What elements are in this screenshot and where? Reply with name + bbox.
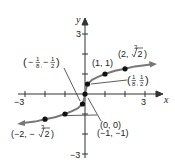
svg-text:(−2, −: (−2, − (11, 129, 35, 139)
point-1 (102, 71, 107, 76)
svg-text:,: , (137, 80, 139, 86)
svg-text:): ) (145, 74, 149, 86)
right-arrow-icon (149, 61, 157, 68)
svg-text:1: 1 (36, 56, 40, 62)
y-min-label: −3 (70, 150, 80, 160)
x-axis-label: x (163, 94, 169, 105)
label-point-neg1: (−1, −1) (97, 128, 129, 138)
svg-text:1: 1 (132, 74, 136, 80)
svg-text:(: ( (23, 56, 27, 68)
x-max-label: 3 (141, 97, 146, 107)
svg-text:−: − (28, 57, 33, 67)
cube-root-graph: y x 3 −3 −3 3 (1, 1) (2, 3 2 ) ( 1 8 , 1… (0, 0, 175, 164)
point-origin (82, 91, 87, 96)
svg-text:8: 8 (132, 81, 136, 87)
svg-text:2: 2 (140, 81, 144, 87)
y-axis-label: y (75, 14, 81, 25)
point-neg2 (42, 117, 47, 122)
svg-text:8: 8 (36, 63, 40, 69)
left-arrow-icon (17, 120, 25, 126)
svg-text:(2,: (2, (118, 49, 129, 59)
svg-text:(: ( (127, 74, 131, 86)
svg-text:2: 2 (51, 63, 55, 69)
svg-text:−: − (43, 57, 48, 67)
point-eighth (85, 81, 90, 86)
point-neg1 (62, 111, 67, 116)
svg-text:): ) (51, 129, 54, 139)
label-point-eighth: ( 1 8 , 1 2 ) (127, 74, 149, 87)
label-point-2: (2, 3 2 ) (118, 44, 147, 59)
x-min-label: −3 (14, 97, 24, 107)
svg-text:2: 2 (45, 129, 50, 139)
label-point-1: (1, 1) (92, 58, 113, 68)
point-neg-eighth (80, 101, 85, 106)
y-max-label: 3 (76, 29, 81, 39)
label-point-neg-eighth: ( − 1 8 , − 1 2 ) (23, 56, 60, 69)
svg-text:1: 1 (140, 74, 144, 80)
svg-text:): ) (144, 49, 147, 59)
point-2 (122, 66, 127, 71)
svg-text:2: 2 (138, 49, 143, 59)
label-point-neg2: (−2, − 3 2 ) (11, 124, 54, 139)
svg-text:1: 1 (51, 56, 55, 62)
svg-text:): ) (56, 56, 60, 68)
